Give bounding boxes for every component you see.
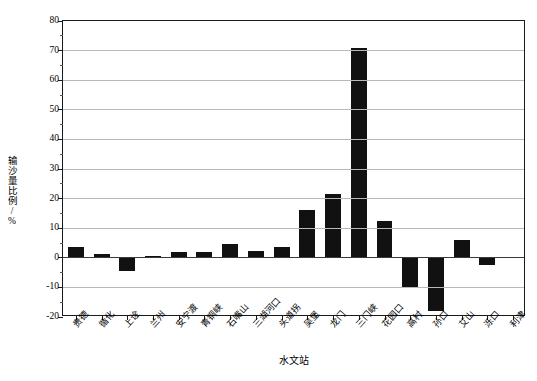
bar: [479, 258, 495, 265]
y-minor-tick: [60, 124, 63, 125]
y-tick-label: 40: [50, 135, 60, 145]
y-tick-label: 0: [54, 253, 59, 263]
bar: [68, 247, 84, 258]
bar: [402, 258, 418, 288]
y-minor-tick: [60, 213, 63, 214]
y-tick-label: 70: [50, 46, 60, 56]
y-tick-label: 50: [50, 105, 60, 115]
y-gridline: [63, 169, 524, 170]
y-gridline: [63, 198, 524, 199]
y-tick-label: 20: [50, 194, 60, 204]
y-tick-label: 10: [50, 223, 60, 233]
bar: [428, 258, 444, 311]
y-tick-label: 60: [50, 75, 60, 85]
bar: [274, 247, 290, 258]
y-gridline: [63, 80, 524, 81]
zero-baseline: [63, 257, 524, 258]
bar: [222, 244, 238, 257]
y-minor-tick: [60, 302, 63, 303]
y-gridline: [63, 228, 524, 229]
y-minor-tick: [60, 272, 63, 273]
y-minor-tick: [60, 183, 63, 184]
y-axis-title: 输沙量比例/%: [6, 156, 16, 226]
y-minor-tick: [60, 65, 63, 66]
y-gridline: [63, 50, 524, 51]
y-minor-tick: [60, 35, 63, 36]
chart-figure: 输沙量比例/% -20-1001020304050607080贵德循化上诠兰州安…: [0, 0, 537, 381]
x-axis-title: 水文站: [62, 352, 525, 367]
y-tick-label: 80: [50, 16, 60, 26]
y-gridline: [63, 139, 524, 140]
y-gridline: [63, 109, 524, 110]
y-tick-label: -20: [46, 312, 59, 322]
bar: [454, 240, 470, 258]
bar: [299, 210, 315, 257]
y-minor-tick: [60, 243, 63, 244]
y-minor-tick: [60, 154, 63, 155]
plot-area: -20-1001020304050607080贵德循化上诠兰州安宁渡青铜峡石嘴山…: [62, 20, 525, 316]
bar: [325, 194, 341, 258]
y-gridline: [63, 287, 524, 288]
bar: [377, 221, 393, 258]
bar: [119, 258, 135, 271]
y-tick-label: 30: [50, 164, 60, 174]
y-minor-tick: [60, 95, 63, 96]
y-tick-label: -10: [46, 283, 59, 293]
